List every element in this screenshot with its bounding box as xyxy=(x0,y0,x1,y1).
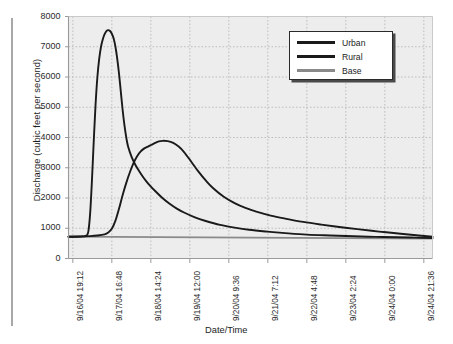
y-tick-label: 6000 xyxy=(27,71,61,81)
legend-swatch-base xyxy=(297,69,335,72)
y-tick-label: 7000 xyxy=(27,41,61,51)
x-tick-label: 9/22/04 4:48 xyxy=(310,275,319,321)
x-tick-label: 9/18/04 14:24 xyxy=(154,270,163,320)
legend-label-urban: Urban xyxy=(342,38,365,48)
x-tick-label: 9/23/04 2:24 xyxy=(349,275,358,321)
y-tick-label: 2000 xyxy=(27,192,61,202)
legend-item-urban: Urban xyxy=(297,36,365,49)
x-tick-label: 9/24/04 21:36 xyxy=(427,270,436,320)
y-tick-label: 1000 xyxy=(27,222,61,232)
x-tick-label: 9/16/04 19:12 xyxy=(76,270,85,320)
legend-label-base: Base xyxy=(342,66,362,76)
y-tick-label: 5000 xyxy=(27,101,61,111)
chart-legend: Urban Rural Base xyxy=(289,31,393,80)
legend-item-base: Base xyxy=(297,64,362,77)
x-tick-label: 9/24/04 0:00 xyxy=(388,275,397,321)
x-tick-label: 9/17/04 16:48 xyxy=(115,270,124,320)
y-tick-label: 3000 xyxy=(27,162,61,172)
legend-swatch-urban xyxy=(297,41,335,44)
x-tick-label: 9/20/04 9:36 xyxy=(232,275,241,321)
legend-label-rural: Rural xyxy=(342,52,363,62)
y-tick-label: 4000 xyxy=(27,132,61,142)
legend-swatch-rural xyxy=(297,55,335,58)
x-tick-label: 9/21/04 7:12 xyxy=(271,275,280,321)
x-tick-label: 9/19/04 12:00 xyxy=(193,270,202,320)
y-tick-label: 8000 xyxy=(27,11,61,21)
figure-container: Discharge (cubic feet per second) Date/T… xyxy=(0,0,453,344)
legend-item-rural: Rural xyxy=(297,50,363,63)
y-tick-label: 0 xyxy=(27,253,61,263)
